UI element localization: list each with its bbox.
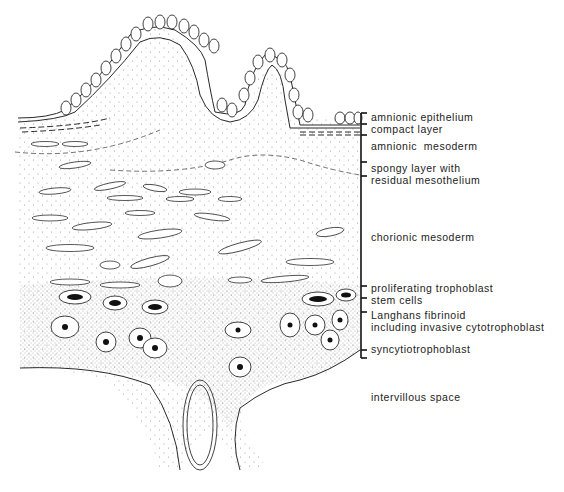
label-syncytiotrophoblast: syncytiotrophoblast [371, 344, 470, 356]
label-compact-layer: compact layer [371, 124, 443, 136]
label-langhans-fibrinoid: Langhans fibrinoid including invasive cy… [371, 310, 544, 333]
label-proliferating-trophoblast: proliferating trophoblast stem cells [371, 283, 493, 306]
label-intervillous-space: intervillous space [371, 392, 461, 404]
label-bracket [361, 113, 367, 358]
label-amnionic-epithelium: amnionic epithelium [371, 112, 473, 124]
label-spongy-layer: spongy layer with residual mesothelium [371, 163, 480, 186]
diagram-figure [0, 0, 564, 492]
label-amnionic-mesoderm: amnionic mesoderm [371, 141, 477, 153]
label-chorionic-mesoderm: chorionic mesoderm [371, 232, 475, 244]
